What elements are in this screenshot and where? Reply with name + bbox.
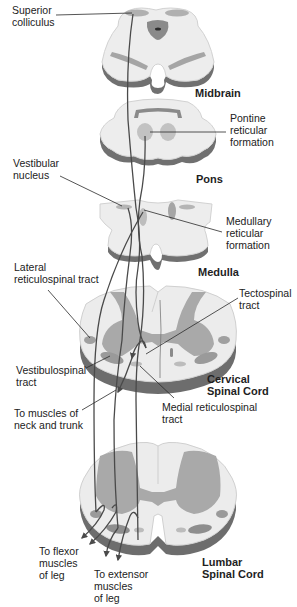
label-medial-reticulospinal-tract: Medial reticulospinal tract xyxy=(162,401,257,425)
midbrain-section xyxy=(102,8,214,94)
label-lateral-reticulospinal-tract: Lateral reticulospinal tract xyxy=(14,261,99,285)
vestibular-nucleus-left xyxy=(116,205,132,210)
descending-motor-pathways-diagram: Superior colliculus Midbrain Pontine ret… xyxy=(0,0,297,607)
label-medullary-reticular-formation: Medullary reticular formation xyxy=(226,215,272,251)
cervical-medial-reticulospinal-left xyxy=(130,362,142,367)
label-pons: Pons xyxy=(196,173,223,185)
lumbar-cord-section xyxy=(80,442,237,555)
label-vestibulospinal-tract: Vestibulospinal tract xyxy=(16,364,86,388)
label-medulla: Medulla xyxy=(198,266,239,278)
label-to-muscles-neck-trunk: To muscles of neck and trunk xyxy=(14,407,83,431)
cervical-lateral-reticulospinal-right xyxy=(218,336,230,344)
leader-superior-colliculus xyxy=(56,13,132,15)
medulla-section xyxy=(100,200,212,270)
label-pontine-reticular-formation: Pontine reticular formation xyxy=(230,112,274,148)
lumbar-lateral-reticulospinal-right xyxy=(216,510,228,518)
cervical-medial-reticulospinal-right xyxy=(174,362,186,367)
label-tectospinal-tract: Tectospinal tract xyxy=(239,287,292,311)
midbrain-top-face xyxy=(102,8,214,81)
label-cervical-title-1: Cervical xyxy=(207,373,250,385)
label-vestibular-nucleus: Vestibular nucleus xyxy=(13,157,59,181)
medulla-top-face xyxy=(100,200,212,256)
label-midbrain: Midbrain xyxy=(195,87,241,99)
label-to-extensor-muscles: To extensor muscles of leg xyxy=(94,568,148,604)
label-cervical-title-2: Spinal Cord xyxy=(207,385,269,397)
cervical-tectospinal-right xyxy=(170,348,173,357)
label-to-flexor-muscles: To flexor muscles of leg xyxy=(39,545,79,581)
label-superior-colliculus: Superior colliculus xyxy=(12,4,55,28)
lumbar-medial-reticulospinal-right xyxy=(176,528,186,533)
vestibular-nucleus-right xyxy=(179,205,195,210)
lumbar-medial-reticulospinal-left xyxy=(134,528,144,533)
leader-neck-trunk xyxy=(82,390,116,410)
label-lumbar-title-1: Lumbar xyxy=(202,556,242,568)
leader-vestibular-nucleus xyxy=(60,176,122,206)
superior-colliculus-right xyxy=(165,10,189,17)
cervical-lateral-reticulospinal-left xyxy=(84,336,96,344)
cerebral-aqueduct xyxy=(155,28,161,31)
label-lumbar-title-2: Spinal Cord xyxy=(202,568,264,580)
